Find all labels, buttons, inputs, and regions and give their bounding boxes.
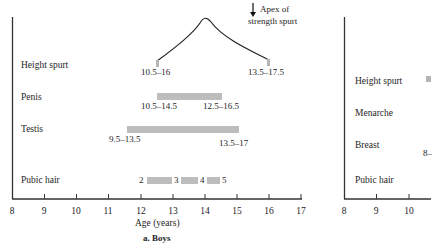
girls-breast-range-fragment: 8– — [423, 148, 432, 158]
girls-row-label-pubic-hair: Pubic hair — [355, 175, 394, 185]
girls-x-ticks — [377, 194, 410, 199]
girls-row-label-menarche: Menarche — [355, 108, 393, 118]
girls-height-marker — [426, 76, 431, 82]
girls-x-tick-10: 10 — [404, 206, 414, 216]
girls-x-tick-9: 9 — [374, 206, 379, 216]
girls-row-label-breast: Breast — [355, 140, 379, 150]
girls-row-label-height-spurt: Height spurt — [355, 76, 402, 86]
girls-x-tick-8: 8 — [342, 206, 347, 216]
